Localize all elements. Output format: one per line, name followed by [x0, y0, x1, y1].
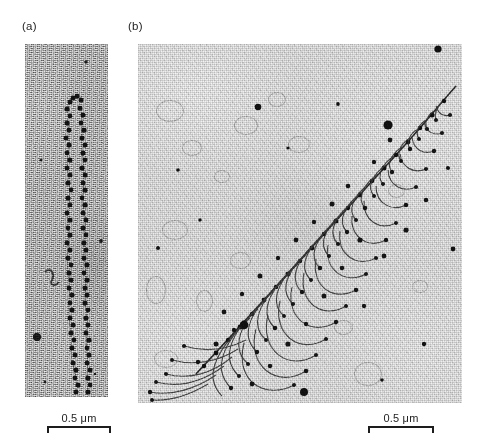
panel-b-label: (b) [128, 20, 143, 32]
scalebar-line [368, 426, 434, 428]
panel-b-film-grain-overlay [138, 44, 462, 403]
scalebar-cap-right [109, 426, 111, 433]
panel-a-scalebar: 0.5 μm [47, 412, 111, 433]
panel-a-film-grain-overlay [25, 44, 108, 397]
panel-a-scalebar-rule [47, 426, 111, 433]
panel-b-scalebar-label: 0.5 μm [383, 412, 418, 424]
scalebar-cap-right [432, 426, 434, 433]
panel-b-micrograph [138, 44, 462, 403]
panel-a-label: (a) [22, 20, 37, 32]
panel-b-scalebar: 0.5 μm [368, 412, 434, 433]
panel-a-micrograph [25, 44, 108, 397]
panel-b-scalebar-rule [368, 426, 434, 433]
scalebar-line [47, 426, 111, 428]
figure-container: (a) [0, 0, 485, 448]
panel-a-scalebar-label: 0.5 μm [61, 412, 96, 424]
